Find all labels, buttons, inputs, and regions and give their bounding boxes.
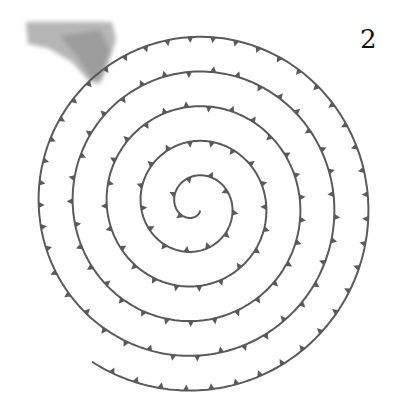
thorn-icon <box>362 216 368 222</box>
thorn-icon <box>334 214 340 220</box>
thorn-icon <box>183 385 189 391</box>
figure-number-label: 2 <box>360 26 377 52</box>
thorny-spiral-illustration <box>0 0 406 407</box>
thorn-icon <box>164 40 170 47</box>
thorn-icon <box>210 37 216 43</box>
thorn-icon <box>194 356 200 362</box>
hand-image <box>26 22 116 84</box>
thorn-icon <box>210 66 216 72</box>
thorn-icon <box>188 321 194 327</box>
thorn-icon <box>41 224 47 230</box>
thorn-icon <box>183 101 189 107</box>
thorn-icon <box>300 217 306 223</box>
thorn-icon <box>362 191 368 197</box>
thorn-icon <box>39 202 45 208</box>
thorn-icon <box>196 286 202 292</box>
thorn-icon <box>212 318 218 324</box>
thorn-icon <box>299 194 305 200</box>
thorn-icon <box>206 106 212 112</box>
thorn-icon <box>67 198 73 204</box>
thorn-icon <box>158 382 164 388</box>
thorn-icon <box>101 203 107 209</box>
figure: 2 <box>0 0 406 407</box>
thorn-icon <box>327 191 333 197</box>
thorn-icon <box>141 205 147 211</box>
thorn-icon <box>183 246 189 252</box>
thorn-icon <box>209 383 215 389</box>
thorn-icon <box>39 180 45 186</box>
thorn-icon <box>170 355 176 361</box>
thorn-icon <box>218 347 224 353</box>
thorn-icon <box>75 221 81 227</box>
thorn-icon <box>187 142 193 148</box>
thorn-icon <box>186 72 192 78</box>
spiral-wire <box>39 37 369 391</box>
thorn-icon <box>187 37 193 43</box>
spiral-path <box>39 37 369 391</box>
thorn-icon <box>260 204 266 210</box>
